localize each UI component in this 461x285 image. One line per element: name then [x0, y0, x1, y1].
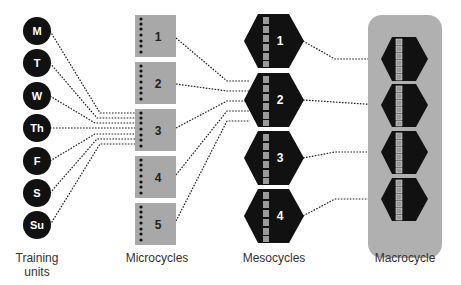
svg-text:Su: Su — [30, 219, 44, 231]
svg-text:2: 2 — [277, 93, 284, 107]
svg-text:M: M — [32, 25, 41, 37]
connectors-micro-to-meso — [176, 38, 250, 221]
mesocycle-hexagon: 3 — [244, 131, 304, 185]
microcycle-box: 2 — [135, 62, 176, 104]
label-macrocycle: Macrocycle — [375, 251, 436, 265]
periodization-diagram: M T W Th F S Su 1 — [0, 0, 461, 285]
training-unit-circle: M — [23, 17, 51, 45]
svg-text:5: 5 — [155, 218, 162, 232]
svg-text:Th: Th — [30, 122, 44, 134]
svg-text:F: F — [34, 155, 41, 167]
label-training-units: Training — [16, 251, 59, 265]
microcycle-box: 3 — [135, 109, 176, 151]
svg-text:S: S — [33, 187, 40, 199]
mesocycle-hexagon: 1 — [244, 14, 304, 68]
training-unit-circle: W — [23, 82, 51, 110]
training-unit-circle: Su — [23, 211, 51, 239]
training-units: M T W Th F S Su — [23, 17, 51, 239]
microcycle-box: 5 — [135, 203, 176, 245]
label-training-units-2: units — [24, 265, 49, 279]
microcycle-box: 4 — [135, 156, 176, 198]
mesocycle-hexagon: 2 — [244, 73, 304, 127]
column-labels: Training units Microcycles Mesocycles Ma… — [16, 251, 436, 279]
mesocycle-hexagon: 4 — [244, 189, 304, 243]
svg-text:3: 3 — [155, 124, 162, 138]
svg-text:4: 4 — [155, 171, 162, 185]
connectors-units-to-micro — [50, 31, 135, 225]
svg-text:4: 4 — [277, 209, 284, 223]
svg-text:3: 3 — [277, 151, 284, 165]
svg-text:1: 1 — [277, 34, 284, 48]
svg-text:2: 2 — [155, 77, 162, 91]
microcycle-box: 1 — [135, 15, 176, 57]
training-unit-circle: F — [23, 147, 51, 175]
mesocycles: 1 2 3 4 — [244, 14, 304, 243]
svg-text:W: W — [32, 90, 43, 102]
training-unit-circle: S — [23, 179, 51, 207]
macrocycle — [368, 15, 442, 258]
microcycles: 1 2 3 4 5 — [135, 15, 176, 245]
svg-text:1: 1 — [155, 30, 162, 44]
svg-text:T: T — [34, 57, 41, 69]
training-unit-circle: Th — [23, 114, 51, 142]
label-mesocycles: Mesocycles — [243, 251, 306, 265]
training-unit-circle: T — [23, 49, 51, 77]
label-microcycles: Microcycles — [126, 251, 189, 265]
